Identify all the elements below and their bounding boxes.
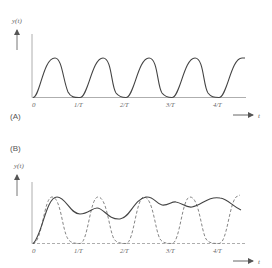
panel-a: y(t) 0 1/T 2/T 3/T 4/T (A) t <box>10 17 261 121</box>
tick-label-4: 4/T <box>213 101 222 108</box>
tick-label-4: 4/T <box>213 247 222 254</box>
series-b-solid <box>33 197 241 244</box>
y-axis-label: y(t) <box>11 17 22 25</box>
x-axis-label: t <box>258 258 261 266</box>
panel-b: (B) y(t) 0 1/T 2/T 3/T 4/T t <box>10 144 261 266</box>
tick-label-2: 2/T <box>120 101 129 108</box>
origin-label: 0 <box>32 247 36 255</box>
tick-label-1: 1/T <box>74 247 83 254</box>
figure: y(t) 0 1/T 2/T 3/T 4/T (A) t (B) y(t) 0 … <box>0 0 272 268</box>
tick-label-1: 1/T <box>74 101 83 108</box>
x-axis-label: t <box>258 112 261 120</box>
tick-label-3: 3/T <box>165 247 175 254</box>
origin-label: 0 <box>32 101 36 109</box>
panel-label-b: (B) <box>10 144 21 153</box>
tick-label-3: 3/T <box>165 101 175 108</box>
tick-label-2: 2/T <box>120 247 129 254</box>
y-axis-label: y(t) <box>13 162 24 170</box>
series-a-solid <box>33 58 245 98</box>
panel-label-a: (A) <box>10 112 21 121</box>
